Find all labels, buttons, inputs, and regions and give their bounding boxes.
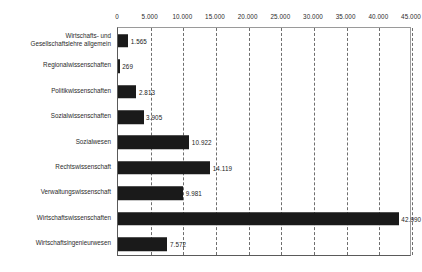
plot-area: 1.5652692.8133.90510.92214.1199.98142.99… xyxy=(117,27,411,256)
x-tick-label-0: 0 xyxy=(115,13,119,20)
bar-6 xyxy=(118,187,183,201)
bar-value-label-6: 9.981 xyxy=(183,190,202,197)
bar-0 xyxy=(118,34,128,48)
bar-value-label-2: 2.813 xyxy=(136,88,155,95)
bar-value-label-4: 10.922 xyxy=(189,139,211,146)
category-label-line2: Gesellschaftslehre allgemein xyxy=(0,40,111,48)
x-tick-label-6: 30.000 xyxy=(303,13,323,20)
x-tick-label-8: 40.000 xyxy=(368,13,388,20)
category-label-6: Verwaltungswissenschaft xyxy=(0,188,111,196)
bar-value-label-7: 42.990 xyxy=(399,215,421,222)
bar-row: 7.572 xyxy=(118,232,410,257)
category-label-3: Sozialwissenschaften xyxy=(0,112,111,120)
bar-value-label-8: 7.572 xyxy=(167,241,186,248)
category-label-1: Regionalwissenschaften xyxy=(0,61,111,69)
bar-7 xyxy=(118,212,399,226)
category-label-0: Wirtschafts- undGesellschaftslehre allge… xyxy=(0,32,111,48)
bar-row: 42.990 xyxy=(118,206,410,231)
category-label-7: Wirtschaftswissenschaften xyxy=(0,214,111,222)
bar-value-label-5: 14.119 xyxy=(210,164,232,171)
bar-row: 1.565 xyxy=(118,28,410,53)
bar-3 xyxy=(118,110,144,124)
bar-value-label-3: 3.905 xyxy=(144,114,163,121)
x-tick-label-7: 35.000 xyxy=(336,13,356,20)
x-tick-label-1: 5.000 xyxy=(142,13,158,20)
x-tick-label-3: 15.000 xyxy=(205,13,225,20)
x-tick-label-9: 45.000 xyxy=(401,13,421,20)
category-label-4: Sozialwesen xyxy=(0,137,111,145)
bar-chart: 05.00010.00015.00020.00025.00030.00035.0… xyxy=(0,0,422,272)
category-axis-labels: Wirtschafts- undGesellschaftslehre allge… xyxy=(0,27,114,256)
bar-5 xyxy=(118,161,210,175)
bar-value-label-1: 269 xyxy=(120,63,133,70)
category-label-8: Wirtschaftsingenieurwesen xyxy=(0,239,111,247)
category-label-2: Politikwissenschaften xyxy=(0,87,111,95)
x-tick-label-4: 20.000 xyxy=(238,13,258,20)
bar-row: 14.119 xyxy=(118,155,410,180)
bar-row: 269 xyxy=(118,53,410,78)
category-label-line1: Wirtschafts- und xyxy=(0,32,111,40)
x-tick-label-5: 25.000 xyxy=(270,13,290,20)
category-label-5: Rechtswissenschaft xyxy=(0,163,111,171)
bar-4 xyxy=(118,136,189,150)
x-axis-tick-labels: 05.00010.00015.00020.00025.00030.00035.0… xyxy=(0,0,422,27)
bar-2 xyxy=(118,85,136,99)
bar-value-label-0: 1.565 xyxy=(128,37,147,44)
bar-8 xyxy=(118,238,167,252)
bar-row: 10.922 xyxy=(118,130,410,155)
bar-row: 9.981 xyxy=(118,181,410,206)
bar-row: 3.905 xyxy=(118,104,410,129)
x-tick-label-2: 10.000 xyxy=(172,13,192,20)
bar-row: 2.813 xyxy=(118,79,410,104)
